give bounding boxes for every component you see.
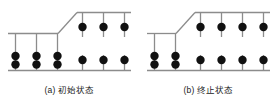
bead-state-figure: (a)初始状态 — [0, 0, 278, 102]
bead — [32, 60, 40, 68]
caption-label: (b) — [184, 85, 195, 95]
panel-initial-state: (a)初始状态 — [0, 0, 139, 102]
caption-text: 终止状态 — [197, 85, 234, 95]
ramp-segment — [176, 13, 195, 34]
bead — [150, 60, 158, 68]
diagram-initial-state — [0, 0, 139, 84]
bead — [196, 23, 204, 31]
diagram-terminal-state — [139, 0, 278, 84]
bead — [78, 23, 86, 31]
bead — [99, 56, 107, 64]
bead — [53, 60, 61, 68]
bead — [259, 56, 267, 64]
bead — [99, 23, 107, 31]
bead — [150, 52, 158, 60]
bead — [53, 52, 61, 60]
bead — [259, 23, 267, 31]
bead — [32, 52, 40, 60]
caption-label: (a) — [45, 85, 56, 95]
bead — [11, 60, 19, 68]
bead — [217, 56, 225, 64]
ramp-segment — [58, 13, 77, 34]
bead — [171, 52, 179, 60]
bead — [238, 23, 246, 31]
bead — [171, 60, 179, 68]
caption-initial-state: (a)初始状态 — [0, 84, 139, 96]
bead — [120, 23, 128, 31]
caption-terminal-state: (b)终止状态 — [139, 84, 278, 96]
bead — [196, 56, 204, 64]
bead — [120, 56, 128, 64]
bead — [238, 56, 246, 64]
bead — [78, 56, 86, 64]
bead — [217, 23, 225, 31]
bead — [11, 52, 19, 60]
caption-text: 初始状态 — [58, 85, 95, 95]
panel-terminal-state: (b)终止状态 — [139, 0, 278, 102]
